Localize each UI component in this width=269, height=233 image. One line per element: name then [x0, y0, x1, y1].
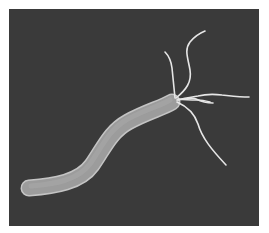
bacterium-illustration: [0, 0, 269, 233]
flagellum-down-right: [177, 102, 226, 165]
flagellum-right-mid: [178, 99, 210, 102]
bacterium-body: [29, 100, 172, 188]
flagellum-up-long: [176, 31, 205, 98]
flagellum-up-left: [165, 52, 175, 98]
